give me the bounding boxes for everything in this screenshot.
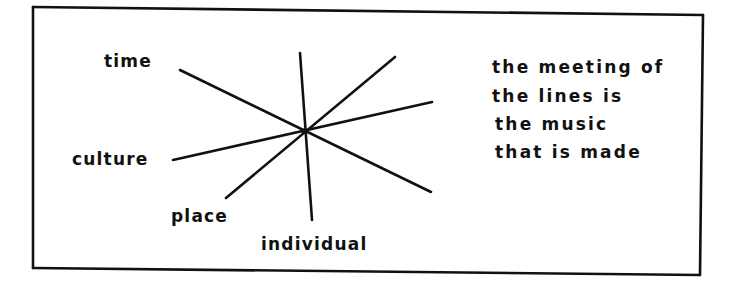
diagram-canvas: time culture place individual the meetin… <box>0 0 730 282</box>
label-culture: culture <box>72 149 149 169</box>
frame-top <box>33 7 703 15</box>
converging-lines <box>173 53 432 220</box>
note-line-2: the lines is <box>492 86 623 106</box>
frame-right <box>700 15 703 275</box>
intersection-point <box>301 128 306 133</box>
note-line-3: the music <box>495 114 608 134</box>
line-individual <box>300 53 312 220</box>
frame <box>33 7 703 275</box>
label-individual: individual <box>261 234 367 254</box>
line-labels: time culture place individual <box>72 51 367 254</box>
line-place <box>226 57 395 198</box>
frame-bottom <box>33 268 700 275</box>
note-block: the meeting of the lines is the music th… <box>492 57 664 162</box>
label-time: time <box>104 51 152 71</box>
label-place: place <box>171 206 228 226</box>
note-line-4: that is made <box>495 142 642 162</box>
note-line-1: the meeting of <box>492 57 664 77</box>
